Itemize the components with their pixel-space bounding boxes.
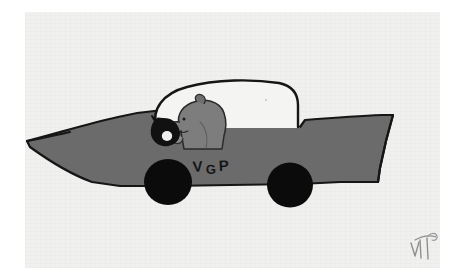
signature-stroke-v xyxy=(411,242,419,256)
car-lettering-p: P xyxy=(218,156,229,174)
signature-stroke-t2 xyxy=(427,238,428,259)
car-lettering-g: G xyxy=(206,162,217,177)
canopy-highlight-dot xyxy=(265,99,267,101)
driver-eye xyxy=(183,118,186,121)
cartoon-drawing: V G P xyxy=(0,0,463,280)
car-lettering-v: V xyxy=(192,157,203,175)
artist-signature xyxy=(411,233,437,259)
front-wheel xyxy=(144,159,192,205)
canopy-glass xyxy=(156,81,300,128)
signature-stroke-t1 xyxy=(420,240,421,258)
rear-wheel xyxy=(267,163,313,208)
steering-wheel-hub xyxy=(162,131,172,141)
signature-crossbar xyxy=(415,236,436,240)
artwork-frame: V G P Animal driving a pointed-nose race… xyxy=(0,0,463,280)
